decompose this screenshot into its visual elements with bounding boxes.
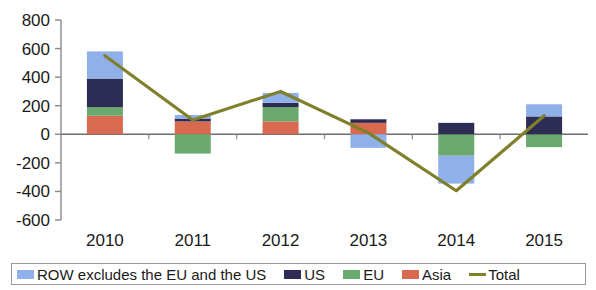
- y-tick-label: -400: [16, 182, 50, 201]
- bar-segment-asia-2012: [263, 121, 299, 134]
- x-tick-label-2014: 2014: [437, 231, 475, 250]
- y-tick-label: -600: [16, 211, 50, 230]
- legend-item-us: US: [284, 264, 325, 284]
- x-tick-label-2011: 2011: [174, 231, 211, 250]
- x-tick-label-2015: 2015: [525, 231, 563, 250]
- x-tick-labels: 201020112012201320142015: [86, 231, 563, 250]
- bar-segment-eu-2010: [87, 107, 123, 116]
- legend-label-total: Total: [488, 267, 520, 282]
- legend-label-eu: EU: [363, 267, 384, 282]
- y-tick-label: 600: [22, 40, 50, 59]
- legend-line-total: [469, 273, 486, 276]
- legend-item-asia: Asia: [402, 264, 451, 284]
- legend-label-us: US: [304, 267, 325, 282]
- legend-item-eu: EU: [343, 264, 384, 284]
- x-tick-label-2013: 2013: [350, 231, 388, 250]
- y-tick-label: 800: [22, 11, 50, 30]
- bar-segment-asia-2011: [175, 121, 211, 134]
- bar-segment-us-2010: [87, 79, 123, 108]
- x-tick-label-2010: 2010: [86, 231, 124, 250]
- y-tick-label: 200: [22, 97, 50, 116]
- bar-segment-eu-2015: [526, 134, 562, 147]
- legend-label-row: ROW excludes the EU and the US: [37, 267, 266, 282]
- chart-legend: ROW excludes the EU and the US US EU Asi…: [11, 263, 586, 285]
- bar-segment-eu-2014: [438, 134, 474, 155]
- x-axis: [61, 134, 588, 139]
- bar-segment-eu-2012: [263, 107, 299, 121]
- x-tick-label-2012: 2012: [262, 231, 300, 250]
- chart-plot-area: 8006004002000-200-400-600 20102011201220…: [0, 0, 596, 290]
- legend-swatch-us: [284, 270, 301, 279]
- bar-segment-eu-2011: [175, 134, 211, 153]
- total-line-series: [105, 56, 544, 191]
- y-tick-label: -200: [16, 154, 50, 173]
- bar-segment-us-2014: [438, 123, 474, 134]
- legend-item-row: ROW excludes the EU and the US: [17, 264, 266, 284]
- bar-segment-asia-2010: [87, 116, 123, 135]
- legend-item-total: Total: [469, 264, 520, 284]
- legend-swatch-eu: [343, 270, 360, 279]
- total-line: [105, 56, 544, 191]
- bar-segment-us-2012: [263, 103, 299, 107]
- bar-segment-us-2013: [350, 119, 386, 123]
- y-tick-label: 400: [22, 68, 50, 87]
- y-axis: 8006004002000-200-400-600: [16, 11, 61, 230]
- legend-swatch-asia: [402, 270, 419, 279]
- legend-label-asia: Asia: [422, 267, 451, 282]
- legend-swatch-row: [17, 270, 34, 279]
- bar-series-group: [87, 51, 562, 183]
- y-tick-label: 0: [41, 125, 50, 144]
- stacked-bar-chart: 8006004002000-200-400-600 20102011201220…: [0, 0, 596, 290]
